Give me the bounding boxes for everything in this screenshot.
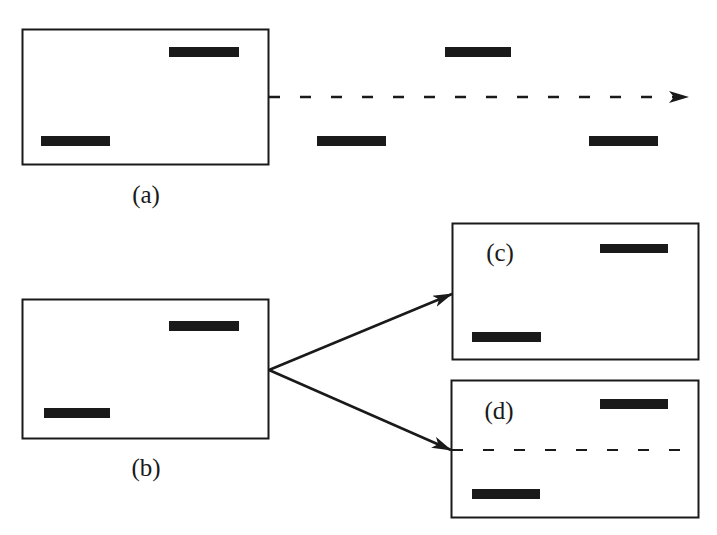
panel-b-label: (b) — [131, 454, 160, 482]
panel-d-bar-top — [600, 399, 668, 409]
extended-bar-bottom-left — [317, 136, 386, 146]
panel-c-label: (c) — [486, 239, 514, 267]
panel-d-label: (d) — [484, 397, 513, 425]
panel-a-label: (a) — [132, 181, 160, 209]
panel-b: (b) — [23, 300, 269, 483]
panel-d: (d) — [452, 381, 699, 518]
panel-b-bar-bottom — [44, 408, 110, 418]
arrow-to-c — [269, 294, 452, 370]
panel-b-bar-top — [169, 321, 239, 331]
panel-a: (a) — [23, 30, 269, 210]
extended-bar-bottom-right — [589, 136, 658, 146]
extension-arrow — [269, 47, 688, 146]
panel-c-bar-top — [600, 244, 668, 253]
panel-d-bar-bottom — [472, 489, 540, 499]
panel-c-bar-bottom — [472, 332, 541, 342]
extended-bar-top — [445, 47, 511, 57]
arrow-to-d — [269, 370, 451, 450]
panel-c: (c) — [453, 224, 699, 360]
panel-a-bar-bottom — [41, 136, 110, 146]
diagram-canvas: (a) (b) (c) (d) — [0, 0, 717, 535]
panel-a-bar-top — [169, 47, 239, 57]
branch-arrows — [269, 294, 452, 450]
